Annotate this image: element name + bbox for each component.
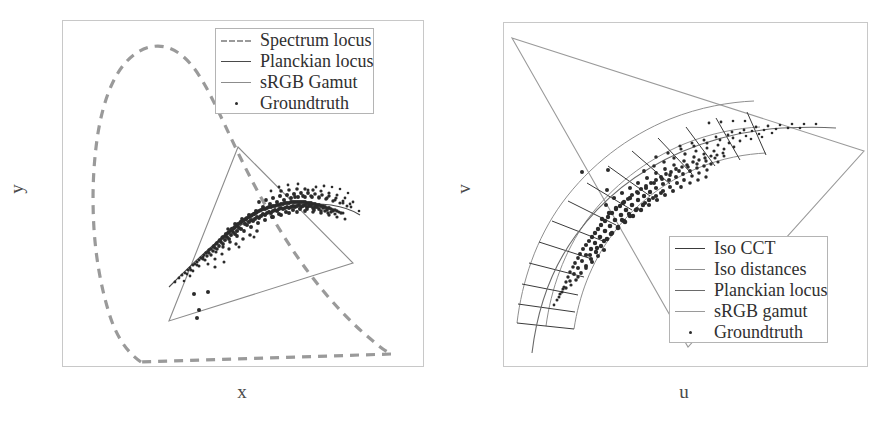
legend-row-srgb-gamut-uv: sRGB gamut (670, 300, 827, 321)
legend-swatch-iso-cct (670, 237, 710, 258)
legend-row-iso-distances: Iso distances (670, 258, 827, 279)
solid-line-icon (221, 82, 251, 83)
plot-area-uv: Iso CCT Iso distances Planckian locus (503, 22, 868, 367)
legend-label-spectrum-locus: Spectrum locus (256, 29, 373, 50)
y-axis-label: y (6, 174, 28, 204)
legend-label-srgb-gamut-uv: sRGB gamut (710, 300, 827, 321)
legend-swatch-srgb-gamut (216, 71, 256, 92)
legend-label-iso-cct: Iso CCT (710, 237, 827, 258)
chromaticity-figure: Spectrum locus Planckian locus sRGB Gamu… (0, 0, 891, 423)
legend-row-groundtruth: Groundtruth (216, 92, 373, 113)
legend-label-groundtruth: Groundtruth (256, 92, 373, 113)
legend-xy: Spectrum locus Planckian locus sRGB Gamu… (215, 28, 374, 114)
v-axis-label: v (453, 174, 475, 204)
groundtruth-points-xy (174, 183, 361, 284)
solid-line-icon (675, 248, 705, 249)
solid-line-icon (221, 61, 251, 62)
dot-marker-icon (689, 331, 692, 334)
legend-uv: Iso CCT Iso distances Planckian locus (669, 236, 828, 343)
legend-row-srgb-gamut: sRGB Gamut (216, 71, 373, 92)
legend-swatch-srgb-gamut-uv (670, 300, 710, 321)
legend-swatch-planckian-locus-uv (670, 279, 710, 300)
legend-label-planckian-locus: Planckian locus (256, 50, 373, 71)
panel-uv-chromaticity: Iso CCT Iso distances Planckian locus (445, 0, 891, 423)
solid-line-icon (675, 311, 705, 312)
spectrum-locus-purple-line (141, 354, 391, 362)
legend-row-spectrum-locus: Spectrum locus (216, 29, 373, 50)
x-axis-label: x (227, 381, 257, 403)
legend-label-srgb-gamut: sRGB Gamut (256, 71, 373, 92)
dashed-line-icon (221, 40, 251, 42)
u-axis-label: u (669, 381, 699, 403)
panel-xy-chromaticity: Spectrum locus Planckian locus sRGB Gamu… (0, 0, 445, 423)
solid-line-icon (675, 290, 705, 291)
legend-row-groundtruth-uv: Groundtruth (670, 321, 827, 342)
legend-swatch-spectrum-locus (216, 29, 256, 50)
legend-label-iso-distances: Iso distances (710, 258, 827, 279)
groundtruth-outliers-xy (192, 290, 210, 320)
legend-row-planckian-locus-uv: Planckian locus (670, 279, 827, 300)
solid-line-icon (675, 269, 705, 270)
legend-row-planckian-locus: Planckian locus (216, 50, 373, 71)
dot-marker-icon (235, 102, 238, 105)
legend-swatch-iso-distances (670, 258, 710, 279)
legend-swatch-planckian-locus (216, 50, 256, 71)
legend-swatch-groundtruth (216, 92, 256, 113)
legend-swatch-groundtruth-uv (670, 321, 710, 342)
legend-row-iso-cct: Iso CCT (670, 237, 827, 258)
legend-label-groundtruth-uv: Groundtruth (710, 321, 827, 342)
plot-area-xy: Spectrum locus Planckian locus sRGB Gamu… (62, 20, 424, 367)
legend-label-planckian-locus-uv: Planckian locus (710, 279, 827, 300)
